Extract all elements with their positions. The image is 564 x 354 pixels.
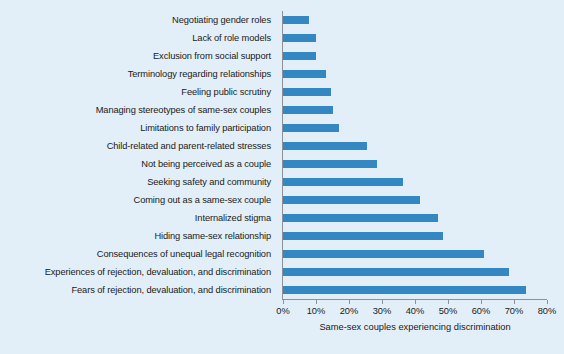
x-tick-label: 40% [406,306,425,316]
bar-track [283,173,547,191]
bar-8 [283,160,377,168]
bar-12 [283,232,443,240]
x-tick [448,300,449,304]
bar-track [283,83,547,101]
x-tick-label: 0% [276,306,289,316]
x-tick-label: 50% [439,306,458,316]
category-label: Experiences of rejection, devaluation, a… [0,267,277,277]
bar-0 [283,16,309,24]
x-tick [547,300,548,304]
category-label: Limitations to family participation [0,123,277,133]
x-tick [283,300,284,304]
bar-track [283,65,547,83]
category-label: Managing stereotypes of same-sex couples [0,105,277,115]
x-tick-label: 60% [472,306,491,316]
bar-10 [283,196,420,204]
bar-6 [283,124,339,132]
bar-7 [283,142,367,150]
category-label: Seeking safety and community [0,177,277,187]
category-label: Feeling public scrutiny [0,87,277,97]
x-tick [349,300,350,304]
bar-track [283,245,547,263]
category-label: Child-related and parent-related stresse… [0,141,277,151]
bar-track [283,47,547,65]
bar-track [283,101,547,119]
bar-track [283,227,547,245]
category-label: Fears of rejection, devaluation, and dis… [0,285,277,295]
y-axis-line [282,11,283,299]
category-label: Negotiating gender roles [0,15,277,25]
category-label: Lack of role models [0,33,277,43]
bar-13 [283,250,484,258]
bar-11 [283,214,438,222]
x-tick-label: 20% [340,306,359,316]
bar-9 [283,178,403,186]
x-tick [382,300,383,304]
x-tick [514,300,515,304]
bar-15 [283,286,526,294]
bar-14 [283,268,509,276]
bar-track [283,209,547,227]
bar-chart: Negotiating gender roles Lack of role mo… [0,0,564,354]
bar-track [283,29,547,47]
bar-2 [283,52,316,60]
bar-5 [283,106,333,114]
plot-area: Negotiating gender roles Lack of role mo… [0,0,564,354]
x-tick-label: 30% [373,306,392,316]
category-label: Internalized stigma [0,213,277,223]
bar-4 [283,88,331,96]
x-tick-label: 80% [538,306,557,316]
bar-track [283,11,547,29]
x-tick [415,300,416,304]
bar-track [283,155,547,173]
bar-3 [283,70,326,78]
x-tick [316,300,317,304]
x-axis-title: Same-sex couples experiencing discrimina… [283,322,547,332]
x-tick [481,300,482,304]
x-axis-tick-labels: 0%10%20%30%40%50%60%70%80% [283,306,547,318]
category-label: Hiding same-sex relationship [0,231,277,241]
x-axis-ticks [283,300,547,305]
category-label: Not being perceived as a couple [0,159,277,169]
category-label: Terminology regarding relationships [0,69,277,79]
bar-1 [283,34,316,42]
bar-track [283,137,547,155]
bar-track [283,191,547,209]
category-label: Consequences of unequal legal recognitio… [0,249,277,259]
bar-track [283,119,547,137]
bar-track [283,263,547,281]
category-label: Coming out as a same-sex couple [0,195,277,205]
category-label: Exclusion from social support [0,51,277,61]
bar-track [283,281,547,299]
x-tick-label: 10% [307,306,326,316]
x-tick-label: 70% [505,306,524,316]
